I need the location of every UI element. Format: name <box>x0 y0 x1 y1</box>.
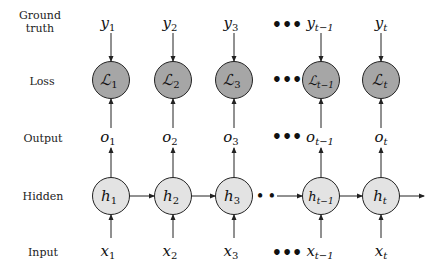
ground-truth-1: y1 <box>100 14 116 33</box>
ground-truth-3: y3 <box>223 14 239 33</box>
output-ellipsis: ••• <box>272 127 303 146</box>
hidden-ellipsis: • • <box>256 189 276 203</box>
loss-nodes <box>93 62 400 99</box>
output-label-2: o2 <box>162 128 177 147</box>
row-label-ground-truth-2: truth <box>26 22 54 35</box>
input-label-3: x3 <box>224 242 239 261</box>
row-label-hidden: Hidden <box>23 190 64 203</box>
ground-truth-ellipsis: ••• <box>272 15 303 34</box>
input-label-1: x1 <box>101 242 116 261</box>
row-label-ground-truth: Ground <box>19 9 61 22</box>
input-label-t-1: xt−1 <box>306 242 333 261</box>
input-ellipsis: ••• <box>272 243 303 262</box>
ground-truth-t-1: yt−1 <box>305 14 333 33</box>
row-label-loss: Loss <box>29 75 55 88</box>
input-label-2: x2 <box>163 242 178 261</box>
output-label-3: o3 <box>223 128 238 147</box>
output-label-1: o1 <box>100 128 115 147</box>
ground-truth-t: yt <box>374 14 388 33</box>
row-label-input: Input <box>28 246 59 259</box>
output-label-t-1: ot−1 <box>306 128 334 147</box>
input-label-t: xt <box>375 242 388 261</box>
row-label-output: Output <box>23 132 63 145</box>
rnn-diagram: Ground truth Loss Output Hidden Input <box>0 0 443 270</box>
loss-ellipsis: ••• <box>272 70 303 89</box>
ground-truth-2: y2 <box>162 14 178 33</box>
output-label-t: ot <box>374 128 388 147</box>
